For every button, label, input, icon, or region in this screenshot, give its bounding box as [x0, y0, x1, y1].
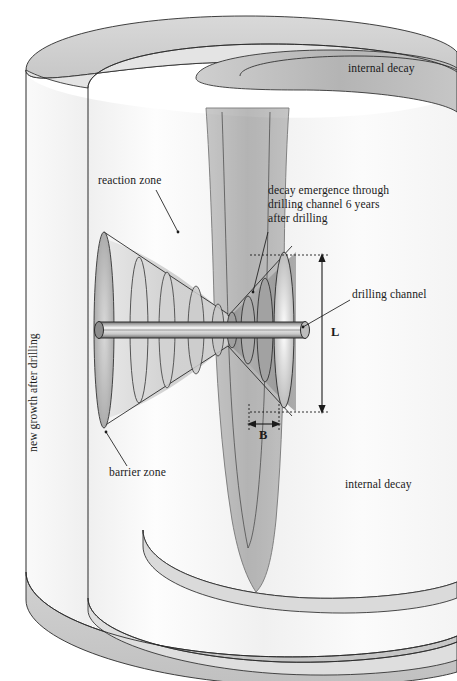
trunk-diagram-svg [0, 0, 457, 681]
label-new-growth-after-drilling: new growth after drilling [27, 333, 41, 452]
label-dimension-B: B [259, 428, 267, 443]
label-decay-emergence-line2: drilling channel 6 years [268, 198, 389, 212]
label-internal-decay-top: internal decay [348, 62, 415, 76]
label-decay-emergence-line1: decay emergence through [268, 184, 389, 198]
figure-canvas: internal decay internal decay reaction z… [0, 0, 457, 681]
label-decay-emergence-line3: after drilling [268, 212, 389, 226]
drilling-channel-tube [95, 322, 310, 339]
label-reaction-zone: reaction zone [98, 174, 161, 188]
label-barrier-zone: barrier zone [109, 466, 166, 480]
label-drilling-channel: drilling channel [352, 288, 427, 302]
label-decay-emergence: decay emergence through drilling channel… [268, 184, 389, 226]
label-dimension-L: L [331, 325, 339, 340]
label-internal-decay-bottom: internal decay [345, 478, 412, 492]
